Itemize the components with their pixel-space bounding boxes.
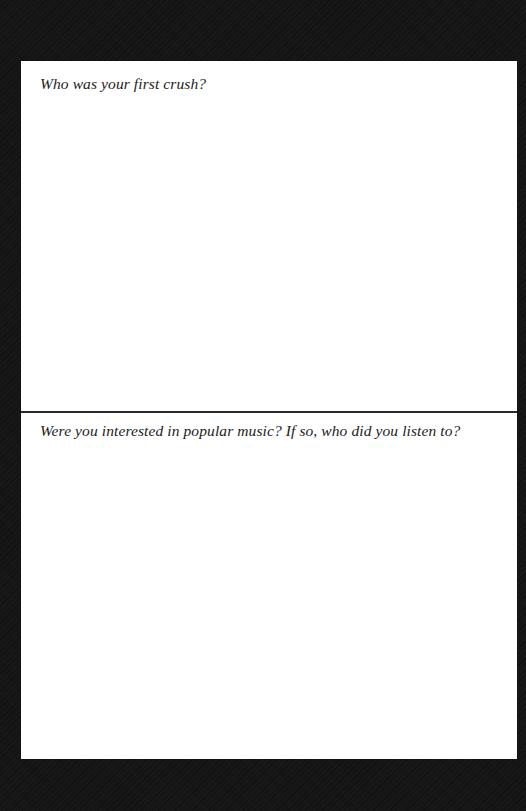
section-divider [21,411,517,413]
prompt-section-first-crush: Who was your first crush? [21,61,517,411]
question-text: Who was your first crush? [40,75,206,93]
journal-page: Who was your first crush? Were you inter… [21,61,517,759]
answer-writing-area[interactable] [40,450,498,749]
prompt-section-popular-music: Were you interested in popular music? If… [21,414,517,759]
question-text: Were you interested in popular music? If… [40,422,460,440]
answer-writing-area[interactable] [40,101,498,401]
